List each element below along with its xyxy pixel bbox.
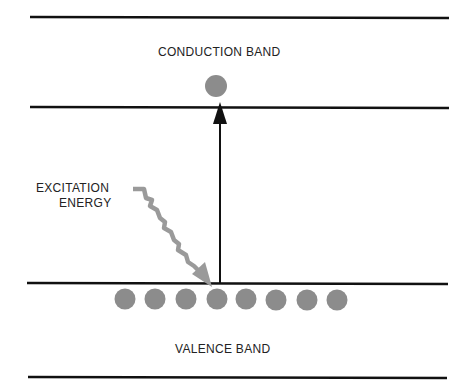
valence-electron <box>207 289 228 310</box>
valence-electron <box>327 290 348 311</box>
valence-electron <box>236 289 257 310</box>
conduction-band-label: CONDUCTION BAND <box>158 45 281 59</box>
conduction-band-top-line <box>30 17 449 18</box>
valence-electrons <box>115 289 348 311</box>
valence-electron <box>176 289 197 310</box>
valence-band-top-line <box>27 283 448 284</box>
valence-band-label: VALENCE BAND <box>175 342 270 356</box>
conduction-electron <box>205 75 227 97</box>
valence-electron <box>115 289 136 310</box>
valence-electron <box>145 289 166 310</box>
valence-band-bottom-line <box>28 377 447 378</box>
excitation-label-line1: EXCITATION <box>36 181 109 195</box>
excitation-arrow <box>213 102 227 283</box>
excitation-energy-wavy-arrow <box>133 189 212 287</box>
valence-electron <box>266 290 287 311</box>
valence-electron <box>297 290 318 311</box>
excitation-label-line2: ENERGY <box>59 196 111 210</box>
conduction-band-bottom-line <box>30 107 449 108</box>
